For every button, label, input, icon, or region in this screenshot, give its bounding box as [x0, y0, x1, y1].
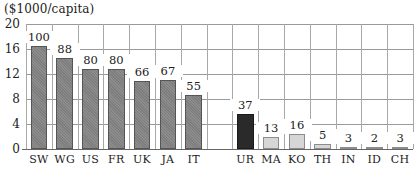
bar-us [82, 69, 99, 149]
bar-fr [108, 69, 125, 149]
vertical-gridline [361, 24, 362, 149]
bar-ko [289, 134, 306, 149]
x-tick-label: IT [179, 153, 209, 166]
bar-value-label: 100 [24, 31, 54, 43]
bar-value-label: 88 [50, 43, 80, 55]
y-tick-label: 12 [0, 67, 20, 81]
bar-value-label: 80 [101, 54, 131, 66]
x-tick-label: CH [385, 153, 415, 166]
bar-ur [237, 114, 254, 149]
bar-value-label: 55 [179, 80, 209, 92]
vertical-gridline [129, 24, 130, 149]
bar-ja [160, 80, 177, 149]
bar-id [366, 147, 383, 149]
bar-value-label: 67 [153, 65, 183, 77]
bar-uk [134, 81, 151, 149]
y-tick-label: 16 [0, 42, 20, 56]
y-axis-unit-label: ($1000/capita) [4, 2, 94, 16]
bar-sw [31, 46, 48, 149]
plot-area: 1008880806667553713165323 [26, 24, 413, 149]
bar-in [340, 147, 357, 150]
x-axis-baseline [22, 149, 413, 150]
vertical-gridline [103, 24, 104, 149]
bar-ma [263, 137, 280, 149]
vertical-gridline [413, 24, 414, 149]
bar-th [314, 144, 331, 149]
bar-value-label: 3 [385, 132, 415, 144]
bar-ch [392, 147, 409, 150]
vertical-gridline [155, 24, 156, 149]
y-tick-label: 4 [0, 117, 20, 131]
bar-it [185, 95, 202, 149]
vertical-gridline [232, 24, 233, 149]
y-tick-label: 20 [0, 17, 20, 31]
y-tick-label: 0 [0, 142, 20, 156]
horizontal-gridline [26, 49, 413, 50]
bar-wg [56, 58, 73, 149]
bar-value-label: 37 [230, 99, 260, 111]
horizontal-gridline [26, 24, 413, 25]
y-tick-label: 8 [0, 92, 20, 106]
vertical-gridline [387, 24, 388, 149]
